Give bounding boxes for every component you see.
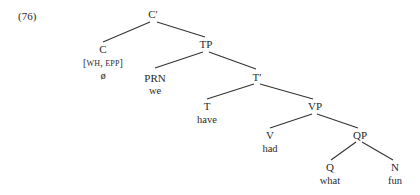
node-t-word: have bbox=[197, 115, 217, 126]
node-cbar: C′ bbox=[148, 9, 158, 20]
edge-tp-prn bbox=[155, 52, 203, 68]
edge-vp-qp bbox=[317, 114, 358, 128]
node-prn-word: we bbox=[149, 86, 161, 97]
node-v: V bbox=[266, 130, 274, 141]
node-prn: PRN bbox=[144, 73, 165, 84]
node-tp: TP bbox=[200, 39, 213, 50]
edge-qp-n bbox=[362, 142, 393, 160]
edge-vp-v bbox=[270, 114, 312, 128]
node-c: C bbox=[99, 44, 106, 55]
node-tbar: T′ bbox=[252, 72, 261, 83]
edge-cbar-tp bbox=[157, 22, 205, 37]
node-n: N bbox=[391, 162, 399, 173]
node-t: T bbox=[204, 101, 211, 112]
tree-edges bbox=[0, 0, 420, 195]
edge-tp-tbar bbox=[209, 52, 256, 69]
edge-qp-q bbox=[331, 142, 356, 160]
node-c-word: ø bbox=[100, 71, 105, 82]
node-q-word: what bbox=[320, 176, 340, 187]
node-v-word: had bbox=[262, 144, 277, 155]
edge-cbar-c bbox=[103, 22, 150, 42]
node-vp: VP bbox=[308, 101, 322, 112]
edge-tbar-t bbox=[207, 84, 254, 99]
node-c-features: [WH, EPP] bbox=[83, 58, 123, 68]
node-n-word: fun bbox=[388, 176, 402, 187]
node-qp: QP bbox=[353, 130, 367, 141]
edge-tbar-vp bbox=[260, 84, 313, 99]
node-q: Q bbox=[326, 162, 334, 173]
